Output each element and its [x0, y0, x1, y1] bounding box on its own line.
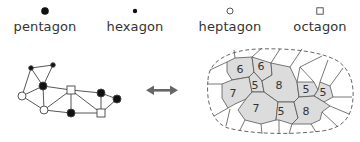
graph-node-heptagon	[40, 106, 48, 114]
cell-label: 8	[276, 79, 283, 92]
planar-graph	[18, 63, 121, 117]
voronoi-tessellation: 6 6 7 5 8 7 5 5 5 8	[208, 48, 354, 134]
cell-label: 5	[320, 86, 327, 99]
cell-label: 5	[278, 105, 285, 118]
cell-label: 7	[253, 102, 260, 115]
double-arrow-icon	[146, 86, 178, 96]
graph-edge	[71, 90, 101, 93]
graph-edge	[31, 65, 53, 68]
graph-node-pentagon	[67, 109, 75, 117]
diagram-canvas: 6 6 7 5 8 7 5 5 5 8	[0, 0, 360, 142]
graph-node-hexagon	[51, 63, 56, 68]
graph-node-pentagon	[39, 82, 47, 90]
graph-edge	[71, 90, 101, 113]
cell-label: 7	[230, 87, 237, 100]
cell-label: 8	[303, 105, 310, 118]
cell-label: 5	[303, 83, 310, 96]
graph-node-hexagon	[29, 66, 34, 71]
cell-label: 6	[258, 60, 265, 73]
graph-node-pentagon	[113, 95, 121, 103]
graph-node-pentagon	[97, 89, 105, 97]
cell-label: 6	[237, 63, 244, 76]
graph-node-octagon	[67, 86, 75, 94]
graph-node-octagon	[97, 109, 105, 117]
graph-node-heptagon	[18, 92, 26, 100]
cell-label: 5	[252, 79, 259, 92]
